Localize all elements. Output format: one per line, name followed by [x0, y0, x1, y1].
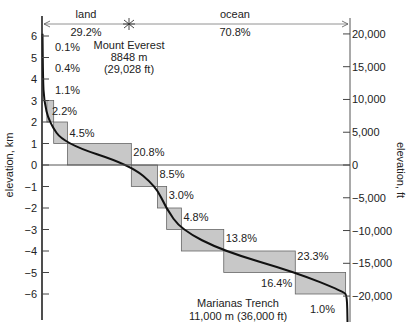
everest-annotation: Mount Everest 8848 m (29,028 ft) — [94, 39, 165, 75]
bin-label: 16.4% — [261, 277, 292, 289]
ocean-label: ocean — [220, 8, 250, 20]
marianas-line-2: 11,000 m (36,000 ft) — [189, 310, 287, 322]
bin-label: 23.3% — [297, 250, 328, 262]
marianas-line-1: Marianas Trench — [197, 297, 279, 309]
left-tick-label: 3 — [31, 95, 37, 107]
top-bands: land 29.2% ocean 70.8% — [44, 8, 348, 38]
bin-label: 20.8% — [133, 146, 164, 158]
right-tick-label: −15,000 — [352, 257, 392, 269]
right-tick-label: 0 — [352, 159, 358, 171]
ocean-percent: 70.8% — [219, 26, 250, 38]
bin-label: 13.8% — [226, 232, 257, 244]
left-tick-label: −5 — [24, 267, 37, 279]
left-tick-label: −1 — [24, 181, 37, 193]
everest-line-1: Mount Everest — [94, 39, 165, 51]
left-tick-label: 0 — [31, 159, 37, 171]
marianas-annotation: Marianas Trench 11,000 m (36,000 ft) — [189, 297, 287, 322]
left-tick-label: −4 — [24, 245, 37, 257]
bin-label: 4.8% — [183, 211, 208, 223]
right-tick-label: 10,000 — [352, 93, 386, 105]
right-axis-label: elevation, ft — [395, 142, 407, 198]
left-tick-label: −2 — [24, 202, 37, 214]
left-axis-label: elevation, km — [3, 133, 15, 198]
left-axis-ticks: 6543210−1−2−3−4−5−6 — [24, 30, 49, 300]
right-tick-label: −10,000 — [352, 225, 392, 237]
divider-star-icon — [123, 18, 135, 30]
everest-line-2: 8848 m — [111, 51, 148, 63]
bin-label: 1.0% — [310, 303, 335, 315]
right-tick-label: −5,000 — [352, 192, 386, 204]
bin-label: 8.5% — [159, 168, 184, 180]
bin-label: 4.5% — [69, 127, 94, 139]
bin-percent-labels: 0.1%0.4%1.1%2.2%4.5%20.8%8.5%3.0%4.8%13.… — [52, 41, 335, 315]
left-tick-label: 6 — [31, 30, 37, 42]
left-tick-label: 2 — [31, 116, 37, 128]
bin-label: 1.1% — [55, 84, 80, 96]
right-tick-label: 20,000 — [352, 28, 386, 40]
bin-label: 3.0% — [169, 189, 194, 201]
hypsometric-chart: 6543210−1−2−3−4−5−6 elevation, km 20,000… — [0, 0, 410, 334]
left-tick-label: 4 — [31, 73, 37, 85]
land-percent: 29.2% — [70, 26, 101, 38]
everest-line-3: (29,028 ft) — [104, 63, 154, 75]
bin-label: 0.4% — [55, 62, 80, 74]
bin-label: 2.2% — [52, 105, 77, 117]
right-tick-label: −20,000 — [352, 290, 392, 302]
left-tick-label: 5 — [31, 52, 37, 64]
left-tick-label: 1 — [31, 138, 37, 150]
right-tick-label: 5,000 — [352, 126, 380, 138]
right-tick-label: 15,000 — [352, 61, 386, 73]
bin-label: 0.1% — [55, 41, 80, 53]
left-tick-label: −6 — [24, 288, 37, 300]
land-label: land — [76, 8, 97, 20]
left-tick-label: −3 — [24, 224, 37, 236]
